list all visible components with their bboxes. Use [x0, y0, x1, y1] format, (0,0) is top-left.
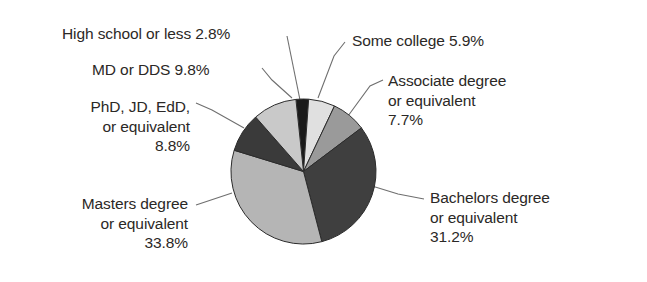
leader-line-high-school: [287, 36, 300, 100]
pie-slices: [231, 99, 376, 244]
pie-chart-figure: High school or less 2.8% MD or DDS 9.8% …: [0, 0, 647, 282]
leader-line-bachelors: [372, 186, 424, 199]
label-associate: Associate degree or equivalent 7.7%: [388, 71, 506, 130]
leader-line-md-dds: [262, 68, 292, 98]
leader-line-associate: [348, 80, 383, 116]
leader-line-phd: [196, 103, 244, 128]
label-phd-jd-edd: PhD, JD, EdD, or equivalent 8.8%: [58, 97, 190, 156]
label-md-dds: MD or DDS 9.8%: [92, 60, 209, 80]
label-high-school: High school or less 2.8%: [62, 24, 230, 44]
label-some-college: Some college 5.9%: [352, 31, 484, 51]
label-bachelors: Bachelors degree or equivalent 31.2%: [430, 188, 550, 247]
label-masters: Masters degree or equivalent 33.8%: [24, 194, 188, 253]
leader-line-masters: [196, 193, 232, 205]
leader-line-some-college: [318, 42, 345, 98]
